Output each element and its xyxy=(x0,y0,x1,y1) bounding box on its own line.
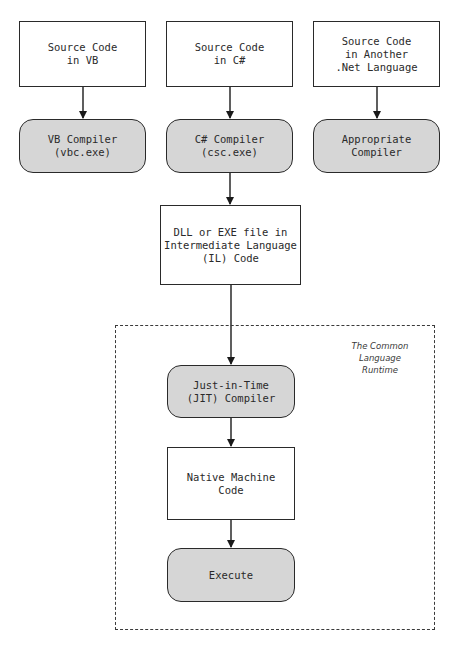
source-csharp-box: Source Code in C# xyxy=(166,21,293,87)
other-compiler-box: Appropriate Compiler xyxy=(313,119,440,173)
il-code-box: DLL or EXE file in Intermediate Language… xyxy=(160,205,301,285)
vb-compiler-box: VB Compiler (vbc.exe) xyxy=(19,119,146,173)
native-code-box: Native Machine Code xyxy=(167,447,295,520)
csharp-compiler-box: C# Compiler (csc.exe) xyxy=(166,119,293,173)
source-vb-box: Source Code in VB xyxy=(19,21,146,87)
execute-box: Execute xyxy=(167,548,295,602)
jit-compiler-box: Just-in-Time (JIT) Compiler xyxy=(167,365,295,418)
clr-label: The Common Language Runtime xyxy=(340,340,420,376)
source-other-box: Source Code in Another .Net Language xyxy=(313,21,440,87)
